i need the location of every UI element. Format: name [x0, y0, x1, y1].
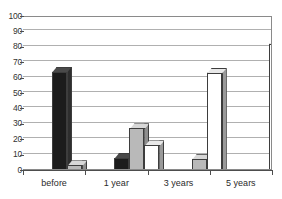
y-axis-tick-mark	[20, 62, 24, 63]
x-axis-tick-mark	[272, 171, 273, 175]
y-axis-tick-mark	[20, 16, 24, 17]
y-axis-tick-mark	[20, 93, 24, 94]
x-axis-category-label: 5 years	[208, 179, 274, 188]
x-axis-category-label: 1 year	[83, 179, 149, 188]
bar-front-face	[207, 73, 222, 170]
y-axis-tick-mark	[20, 139, 24, 140]
bar-front-face	[269, 44, 272, 170]
bar	[67, 160, 87, 170]
bar-front-face	[114, 158, 129, 170]
y-axis-tick-mark	[20, 124, 24, 125]
x-axis-category-label: 3 years	[146, 179, 212, 188]
x-axis-tick-mark	[85, 171, 86, 175]
bar-side-face	[222, 68, 227, 170]
x-axis-tick-mark	[148, 171, 149, 175]
gridline	[23, 29, 271, 30]
y-axis-tick-mark	[20, 155, 24, 156]
y-axis-tick-mark	[20, 78, 24, 79]
bar	[269, 39, 272, 170]
bar-front-face	[144, 145, 159, 170]
plot-area	[23, 16, 272, 170]
bar-front-face	[52, 72, 67, 171]
bar	[52, 67, 72, 171]
y-axis-tick-mark	[20, 108, 24, 109]
y-axis-tick-mark	[20, 31, 24, 32]
gridline	[23, 45, 271, 46]
y-axis-tick-mark	[20, 47, 24, 48]
x-axis-tick-mark	[210, 171, 211, 175]
bar	[207, 68, 227, 170]
bar-chart: 1009080706050403020100 before1 year3 yea…	[0, 0, 282, 199]
x-axis-category-label: before	[21, 179, 87, 188]
bar-side-face	[67, 67, 72, 171]
bar-front-face	[129, 128, 144, 170]
x-axis-tick-mark	[23, 171, 24, 175]
bar	[144, 140, 164, 170]
bar-front-face	[192, 159, 207, 170]
y-axis-tick-labels: 1009080706050403020100	[0, 0, 22, 199]
gridline	[23, 60, 271, 61]
